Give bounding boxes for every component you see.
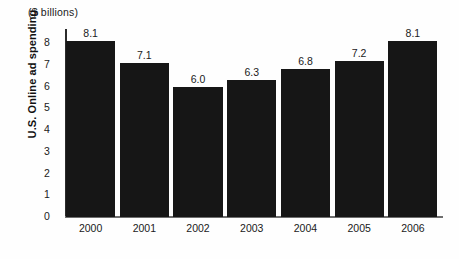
x-tick-group: 2006 xyxy=(388,0,437,259)
y-tick-label: 5 xyxy=(38,101,56,113)
x-tick-label: 2002 xyxy=(173,222,222,234)
y-tick-label: 1 xyxy=(38,188,56,200)
x-tick-group: 2004 xyxy=(281,0,330,259)
y-tick-label: 0 xyxy=(38,210,56,222)
y-tick-label: 2 xyxy=(38,167,56,179)
x-tick-group: 2000 xyxy=(66,0,115,259)
x-tick-label: 2004 xyxy=(281,222,330,234)
bar-chart: ($ billions) U.S. Online ad spending 012… xyxy=(0,0,459,259)
x-tick-label: 2000 xyxy=(66,222,115,234)
y-axis-tick-labels: 012345678 xyxy=(0,0,60,259)
x-tick-group: 2002 xyxy=(173,0,222,259)
x-tick-label: 2003 xyxy=(227,222,276,234)
y-tick-label: 4 xyxy=(38,123,56,135)
x-tick-group: 2003 xyxy=(227,0,276,259)
x-tick-label: 2001 xyxy=(120,222,169,234)
y-tick-label: 8 xyxy=(38,36,56,48)
y-tick-label: 6 xyxy=(38,80,56,92)
x-tick-group: 2005 xyxy=(335,0,384,259)
y-tick-label: 7 xyxy=(38,58,56,70)
y-tick-label: 3 xyxy=(38,145,56,157)
x-tick-group: 2001 xyxy=(120,0,169,259)
x-tick-label: 2006 xyxy=(388,222,437,234)
x-tick-label: 2005 xyxy=(335,222,384,234)
